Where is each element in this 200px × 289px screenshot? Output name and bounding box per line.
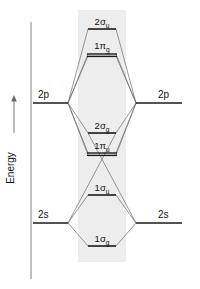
ao-label-right-2p: 2p <box>158 89 170 100</box>
ao-label-right-2s: 2s <box>158 209 169 220</box>
atomic-orbital-right-2s: 2s <box>136 209 182 223</box>
mo-energy-diagram: Energy 2p <box>0 0 200 289</box>
energy-axis-arrow-group <box>11 95 17 133</box>
up-arrow-icon <box>11 95 17 102</box>
ao-label-left-2p: 2p <box>38 89 50 100</box>
diagram-canvas: Energy 2p <box>0 0 200 289</box>
atomic-orbital-right-2p: 2p <box>136 89 182 103</box>
ao-label-left-2s: 2s <box>38 209 49 220</box>
atomic-orbital-left-2s: 2s <box>33 209 68 223</box>
energy-axis-label: Energy <box>5 152 16 184</box>
atomic-orbital-left-2p: 2p <box>33 89 68 103</box>
